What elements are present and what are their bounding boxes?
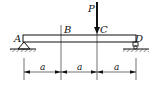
label-p: P <box>87 3 95 14</box>
beam <box>23 35 136 42</box>
label-b: B <box>63 24 71 35</box>
beam-diagram: P A B C D a a a <box>0 0 159 90</box>
dimension-label-3: a <box>114 62 119 72</box>
label-d: D <box>134 33 143 44</box>
dimension-label-2: a <box>77 62 82 72</box>
dimension-label-1: a <box>40 62 45 72</box>
label-a: A <box>13 33 21 44</box>
label-c: C <box>100 24 108 35</box>
